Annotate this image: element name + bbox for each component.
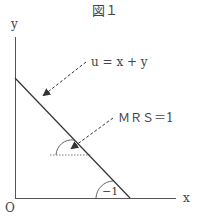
diagram-canvas [0, 0, 207, 221]
utility-arrow [44, 62, 86, 95]
slope-angle-arc [96, 181, 113, 198]
mrs-arrow [72, 118, 113, 148]
indifference-line [15, 78, 130, 198]
mrs-angle-arc [56, 140, 74, 155]
